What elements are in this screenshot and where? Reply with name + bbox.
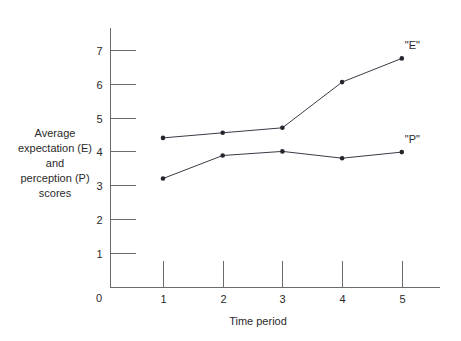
y-axis-tick-label: 5	[96, 113, 102, 125]
series-data-point	[340, 80, 345, 85]
data-series-group	[161, 56, 404, 181]
series-labels-group: "E""P"	[405, 39, 420, 145]
series-data-point	[161, 136, 166, 141]
x-axis-tick-label: 3	[279, 293, 285, 305]
y-axis-tick-label: 2	[96, 214, 102, 226]
y-axis-tick-label: 4	[96, 146, 102, 158]
y-axis-tick-label: 7	[96, 45, 102, 57]
series-label: "P"	[405, 133, 420, 145]
chart-container: Average expectation (E) and perception (…	[0, 0, 461, 341]
x-axis-ticks-group	[164, 261, 403, 288]
x-axis-tick-labels-group: 12345	[160, 293, 405, 305]
y-axis-tick-label: 3	[96, 180, 102, 192]
x-axis-tick-label: 5	[399, 293, 405, 305]
series-data-point	[400, 56, 405, 61]
y-axis-tick-label: 6	[96, 79, 102, 91]
x-axis-tick-label: 1	[160, 293, 166, 305]
series-data-point	[220, 153, 225, 158]
series-data-point	[280, 126, 285, 131]
origin-tick-label: 0	[96, 292, 102, 304]
series-data-point	[220, 131, 225, 136]
line-chart-plot: 1234567 12345 0 "E""P" Time period	[0, 0, 461, 341]
y-axis-ticks-group	[111, 51, 136, 254]
x-axis-title: Time period	[229, 315, 287, 327]
y-axis-tick-label: 1	[96, 248, 102, 260]
series-data-point	[340, 156, 345, 161]
x-axis-tick-label: 4	[339, 293, 345, 305]
axes-group	[111, 28, 441, 288]
series-data-point	[161, 176, 166, 181]
series-data-point	[280, 149, 285, 154]
series-data-point	[400, 150, 405, 155]
x-axis-tick-label: 2	[220, 293, 226, 305]
series-line	[163, 151, 402, 178]
y-axis-tick-labels-group: 1234567	[96, 45, 102, 260]
series-label: "E"	[405, 39, 420, 51]
